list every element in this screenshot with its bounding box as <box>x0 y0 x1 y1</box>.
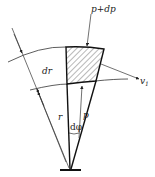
outer-arc <box>8 47 66 62</box>
velocity-arrow <box>101 64 139 79</box>
r-arrow <box>38 92 66 162</box>
label-r: r <box>58 112 63 122</box>
hatched-element <box>66 47 104 84</box>
label-angle: dφ <box>70 122 82 132</box>
fluid-element-diagram: p+dp dr r p dφ v1 <box>0 0 155 177</box>
outer-pressure-arrow <box>87 14 91 46</box>
label-p: p <box>83 110 89 120</box>
label-dr: dr <box>42 66 53 76</box>
velocity-subscript: 1 <box>145 80 149 87</box>
label-outer-pressure: p+dp <box>91 4 116 14</box>
angle-arc <box>69 133 79 134</box>
label-velocity: v1 <box>140 76 149 87</box>
dr-arrow-outer <box>14 34 22 53</box>
